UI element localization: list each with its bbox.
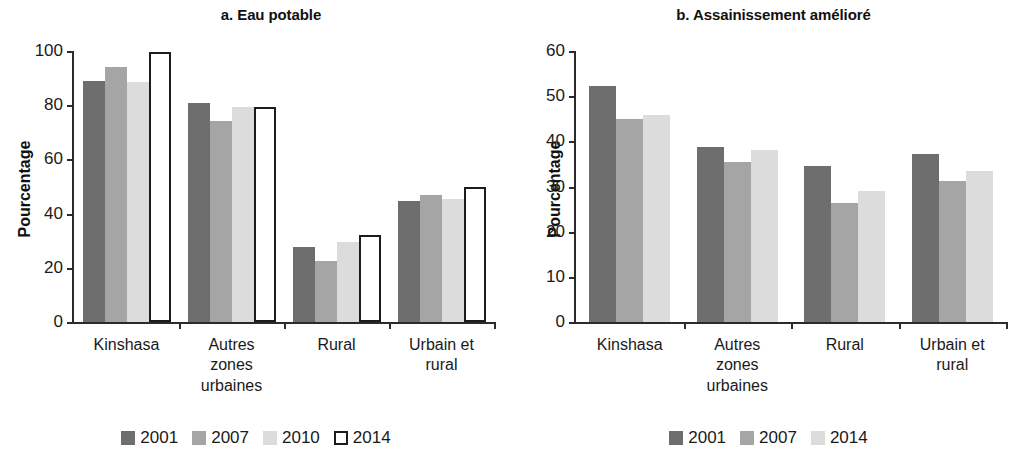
y-axis-tick — [569, 322, 576, 324]
x-axis-category-line: Rural — [317, 336, 355, 353]
legend-label: 2007 — [759, 428, 797, 448]
bar-2007-rural — [315, 261, 337, 322]
legend-swatch-icon — [669, 431, 683, 445]
y-axis-tick — [569, 277, 576, 279]
bar-2001-kinshasa — [589, 86, 616, 322]
y-axis-tick-label: 100 — [35, 41, 63, 61]
x-axis-category-line: zones — [210, 356, 253, 373]
x-axis-tick — [791, 322, 793, 329]
legend-swatch-icon — [334, 431, 348, 445]
legend-swatch-icon — [740, 431, 754, 445]
x-axis-category-label: Kinshasa — [570, 335, 690, 355]
bar-2014-autres-zones-urbaines — [751, 150, 778, 322]
x-axis-category-line: urbaines — [707, 377, 768, 394]
bar-2001-rural — [804, 166, 831, 322]
bar-2001-urbain-et-rural — [912, 154, 939, 322]
legend-swatch-icon — [811, 431, 825, 445]
panel-a-y-axis-label: Pourcentage — [16, 124, 34, 254]
y-axis-tick — [67, 51, 74, 53]
legend-item-2001[interactable]: 2001 — [669, 428, 726, 448]
y-axis-tick-label: 60 — [546, 41, 565, 61]
y-axis-tick-label: 40 — [546, 131, 565, 151]
legend-item-2001[interactable]: 2001 — [121, 428, 178, 448]
x-axis-category-line: Urbain et — [920, 336, 985, 353]
bar-2010-rural — [337, 242, 359, 322]
x-axis-tick — [684, 322, 686, 329]
y-axis-tick — [67, 268, 74, 270]
y-axis-tick — [569, 96, 576, 98]
legend-label: 2007 — [211, 428, 249, 448]
bar-2007-autres-zones-urbaines — [210, 121, 232, 322]
x-axis-category-line: Kinshasa — [94, 336, 160, 353]
bar-group: Urbain etrural — [899, 51, 1007, 322]
bar-group: Kinshasa — [576, 51, 684, 322]
y-axis-tick-label: 0 — [54, 312, 63, 332]
panel-a-title: a. Eau potable — [0, 6, 512, 23]
y-axis-tick-label: 50 — [546, 86, 565, 106]
y-axis-tick-label: 10 — [546, 266, 565, 286]
bar-2014-autres-zones-urbaines — [254, 107, 276, 322]
x-axis-category-line: Urbain et — [409, 336, 474, 353]
bar-2007-autres-zones-urbaines — [724, 162, 751, 322]
legend-item-2014[interactable]: 2014 — [334, 428, 391, 448]
y-axis-tick-label: 0 — [556, 312, 565, 332]
bar-2007-urbain-et-rural — [420, 195, 442, 322]
bar-2001-autres-zones-urbaines — [188, 103, 210, 323]
x-axis-category-label: Rural — [785, 335, 905, 355]
y-axis-tick — [67, 214, 74, 216]
x-axis-category-line: urbaines — [201, 377, 262, 394]
x-axis-tick — [1006, 322, 1008, 329]
bar-2014-rural — [359, 235, 381, 322]
legend-swatch-icon — [192, 431, 206, 445]
legend-item-2007[interactable]: 2007 — [192, 428, 249, 448]
bar-2014-urbain-et-rural — [966, 171, 993, 322]
panel-assainissement-ameliore: b. Assainissement amélioré Pourcentage 0… — [512, 0, 1025, 456]
bar-2007-kinshasa — [616, 119, 643, 322]
y-axis-tick — [67, 105, 74, 107]
bar-group: Kinshasa — [74, 51, 179, 322]
x-axis-category-line: Autres — [714, 336, 760, 353]
x-axis-tick — [284, 322, 286, 329]
legend-item-2010[interactable]: 2010 — [263, 428, 320, 448]
x-axis-category-label: Urbain etrural — [382, 335, 502, 376]
bar-2014-kinshasa — [149, 52, 171, 322]
panel-b-title: b. Assainissement amélioré — [512, 6, 1025, 23]
bar-group: Urbain etrural — [389, 51, 494, 322]
x-axis-category-label: Autreszonesurbaines — [172, 335, 292, 396]
bar-2001-urbain-et-rural — [398, 201, 420, 322]
x-axis-category-line: Kinshasa — [597, 336, 663, 353]
legend-item-2007[interactable]: 2007 — [740, 428, 797, 448]
x-axis-tick — [179, 322, 181, 329]
panel-eau-potable: a. Eau potable Pourcentage 020406080100K… — [0, 0, 512, 456]
bar-2014-kinshasa — [643, 115, 670, 322]
legend-label: 2001 — [688, 428, 726, 448]
bar-2007-kinshasa — [105, 67, 127, 322]
panel-b-plot-area: 0102030405060KinshasaAutreszonesurbaines… — [574, 51, 1006, 324]
bar-2001-kinshasa — [83, 81, 105, 322]
x-axis-category-line: rural — [425, 356, 457, 373]
panel-a-plot-area: 020406080100KinshasaAutreszonesurbainesR… — [72, 51, 494, 324]
panel-b-legend: 200120072014 — [512, 428, 1025, 448]
y-axis-tick-label: 30 — [546, 176, 565, 196]
bar-2007-rural — [831, 203, 858, 322]
legend-swatch-icon — [121, 431, 135, 445]
x-axis-category-label: Urbain etrural — [892, 335, 1012, 376]
bar-2010-kinshasa — [127, 82, 149, 322]
bar-2007-urbain-et-rural — [939, 181, 966, 322]
x-axis-category-line: zones — [716, 356, 759, 373]
panel-a-legend: 2001200720102014 — [0, 428, 512, 448]
legend-swatch-icon — [263, 431, 277, 445]
x-axis-category-label: Autreszonesurbaines — [677, 335, 797, 396]
legend-item-2014[interactable]: 2014 — [811, 428, 868, 448]
y-axis-tick-label: 60 — [44, 149, 63, 169]
y-axis-tick — [569, 232, 576, 234]
legend-label: 2010 — [282, 428, 320, 448]
bar-2001-rural — [293, 247, 315, 322]
bar-2010-urbain-et-rural — [442, 199, 464, 322]
bar-2014-urbain-et-rural — [464, 187, 486, 323]
bar-2014-rural — [858, 191, 885, 322]
bar-group: Autreszonesurbaines — [179, 51, 284, 322]
bar-group: Rural — [791, 51, 899, 322]
bar-2010-autres-zones-urbaines — [232, 107, 254, 322]
y-axis-tick-label: 20 — [546, 221, 565, 241]
